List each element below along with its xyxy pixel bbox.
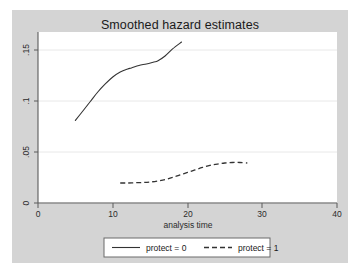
- y-tick-label-0.05: .05: [21, 146, 31, 158]
- hazard-plot: .15 .1 .05 0 0 10 20 30 40 analysis time: [0, 0, 360, 277]
- y-tick-label-0.15: .15: [21, 44, 31, 56]
- x-axis-ticks: [38, 203, 337, 208]
- graph-window: Smoothed hazard estimates .15 .1 .05 0: [12, 10, 348, 263]
- x-axis-tick-labels: 0 10 20 30 40: [36, 209, 342, 219]
- x-tick-label-0: 0: [36, 209, 41, 219]
- y-axis-tick-labels: .15 .1 .05 0: [21, 44, 31, 206]
- legend-label-protect-1: protect = 1: [238, 243, 279, 253]
- x-tick-label-40: 40: [332, 209, 342, 219]
- x-axis-title: analysis time: [163, 220, 212, 230]
- legend-label-protect-0: protect = 0: [146, 243, 187, 253]
- x-tick-label-20: 20: [183, 209, 193, 219]
- legend: protect = 0 protect = 1: [104, 238, 279, 257]
- x-tick-label-30: 30: [257, 209, 267, 219]
- y-tick-label-0: 0: [21, 200, 31, 205]
- x-tick-label-10: 10: [108, 209, 118, 219]
- plot-area-background: [38, 32, 337, 203]
- y-tick-label-0.1: .1: [21, 97, 31, 104]
- y-axis-ticks: [34, 50, 38, 203]
